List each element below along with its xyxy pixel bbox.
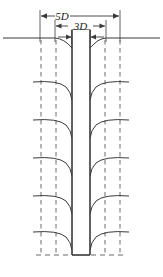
dimension-5d [41,13,119,19]
dim-3d-arrow-right [100,23,106,28]
dim-3d-arrow-left [56,23,62,28]
shear-curve-left-1 [33,82,72,100]
shear-curve-left-5 [33,232,72,250]
shear-curve-right-4 [90,196,129,214]
shear-curve-left-3 [33,158,72,176]
dim-d-arrow-right [91,34,97,39]
ground-trough-right [90,38,106,48]
ground-trough-left [55,38,72,48]
dimension-label-5d: 5D [55,10,69,22]
shear-curve-right-1 [90,82,129,100]
shear-curves-right [90,82,129,250]
shear-curves-left [33,82,72,250]
dim-d-arrow-left [66,34,72,39]
shear-curve-right-5 [90,232,129,250]
dim-5d-arrow-right [113,13,119,19]
cross-section-diagram: 5D 3D D [0,0,163,277]
shear-curve-right-2 [90,120,129,138]
shear-curve-left-4 [33,196,72,214]
dim-5d-arrow-left [41,13,47,19]
figure-root: 5D 3D D [0,0,163,277]
shear-curve-left-2 [33,120,72,138]
shear-curve-right-3 [90,158,129,176]
pile-shaft-fill [72,30,90,255]
